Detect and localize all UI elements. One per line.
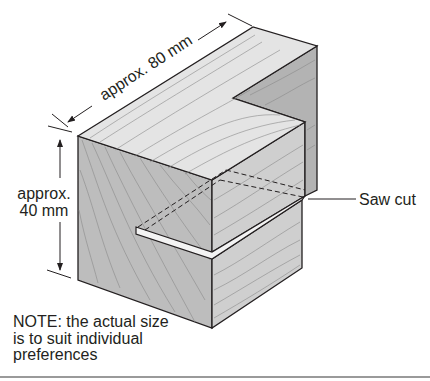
height-label-line2: 40 mm xyxy=(20,202,69,219)
bottom-divider xyxy=(0,376,430,378)
note-line-1: NOTE: the actual size xyxy=(13,314,213,331)
note-line-3: preferences xyxy=(13,347,213,364)
height-label-line1: approx. xyxy=(17,185,70,202)
height-dimension: approx. 40 mm xyxy=(17,126,72,278)
saw-cut-label: Saw cut xyxy=(359,191,416,208)
saw-cut-callout: Saw cut xyxy=(308,191,416,208)
note-line-2: is to suit individual xyxy=(13,331,213,348)
note-text: NOTE: the actual size is to suit individ… xyxy=(13,314,213,364)
